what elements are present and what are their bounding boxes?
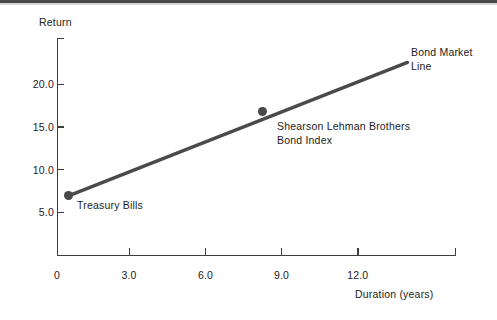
x-tick-label-3: 3.0 <box>109 269 149 281</box>
x-tick-mark-12 <box>357 248 358 255</box>
data-point-treasury-bills <box>64 191 73 200</box>
annotation-bond-market-line-row1: Bond Market <box>411 46 473 60</box>
annotation-treasury-bills: Treasury Bills <box>77 199 143 213</box>
y-tick-mark-10 <box>57 169 64 170</box>
y-tick-label-20: 20.0 <box>26 78 54 90</box>
x-axis-title: Duration (years) <box>355 288 433 300</box>
x-axis-line <box>57 255 456 256</box>
y-axis-top-cap-tick <box>57 38 64 39</box>
x-tick-mark-6 <box>205 248 206 255</box>
y-tick-label-5: 5.0 <box>26 206 54 218</box>
x-tick-mark-9 <box>281 248 282 255</box>
annotation-slb-bond-index-row1: Shearson Lehman Brothers <box>277 120 410 134</box>
chart-canvas: 20.0 15.0 10.0 5.0 0 3.0 6.0 9.0 12.0 Re… <box>0 0 497 320</box>
y-tick-label-15: 15.0 <box>26 121 54 133</box>
x-axis-right-cap-tick <box>455 248 456 255</box>
x-tick-label-12: 12.0 <box>338 269 378 281</box>
x-tick-label-6: 6.0 <box>186 269 226 281</box>
y-axis-title: Return <box>39 16 72 28</box>
annotation-slb-bond-index-row2: Bond Index <box>277 134 332 148</box>
top-border-rule-shadow <box>0 3 497 5</box>
y-tick-mark-20 <box>57 84 64 85</box>
y-tick-label-10: 10.0 <box>26 164 54 176</box>
y-tick-mark-5 <box>57 212 64 213</box>
x-tick-label-9: 9.0 <box>262 269 302 281</box>
y-axis-line <box>57 38 58 256</box>
x-tick-label-0: 0 <box>37 269 77 281</box>
annotation-bond-market-line-row2: Line <box>411 60 432 74</box>
data-point-shearson-lehman-bond-index <box>258 107 267 116</box>
y-tick-mark-15 <box>57 126 64 127</box>
x-tick-mark-3 <box>129 248 130 255</box>
